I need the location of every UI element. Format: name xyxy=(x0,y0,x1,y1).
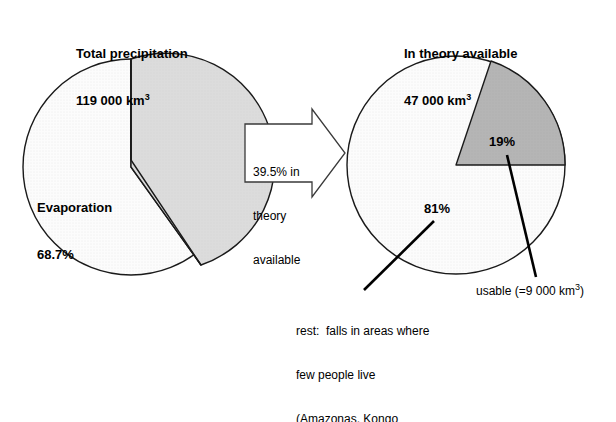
evaporation-label: Evaporation 68.7% xyxy=(37,168,112,295)
arrow-label: 39.5% in theory available xyxy=(253,136,300,297)
left-chart-title: Total precipitation 119 000 km3 xyxy=(76,14,188,141)
evaporation-label-value: 68.7% xyxy=(37,247,112,263)
rest-callout-line3: (Amazonas, Kongo xyxy=(296,412,429,422)
usable-callout-text: usable (=9 000 km3) xyxy=(476,284,584,299)
left-title-exponent: 3 xyxy=(145,92,150,102)
usable-percent-label: 19% xyxy=(489,134,515,150)
arrow-label-line2: theory xyxy=(253,209,300,224)
rest-callout-text: rest: falls in areas where few people li… xyxy=(296,295,429,422)
arrow-label-line1: 39.5% in xyxy=(253,165,300,180)
right-chart-title: In theory available 47 000 km3 xyxy=(404,14,517,141)
rest-callout-line1: rest: falls in areas where xyxy=(296,324,429,339)
evaporation-label-name: Evaporation xyxy=(37,200,112,216)
rest-percent-label: 81% xyxy=(424,201,450,217)
water-balance-pie-figure: Total precipitation 119 000 km3 In theor… xyxy=(0,0,616,422)
right-chart-title-line1: In theory available xyxy=(404,46,517,62)
right-chart-title-value: 47 000 km3 xyxy=(404,93,517,109)
arrow-label-line3: available xyxy=(253,253,300,268)
rest-callout-line2: few people live xyxy=(296,368,429,383)
left-chart-title-line1: Total precipitation xyxy=(76,46,188,62)
left-chart-title-value: 119 000 km3 xyxy=(76,93,188,109)
right-title-exponent: 3 xyxy=(466,92,471,102)
